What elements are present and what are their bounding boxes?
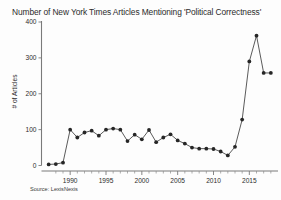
data-point (61, 161, 65, 165)
data-point (262, 71, 266, 75)
data-point (161, 136, 165, 140)
series-line (49, 36, 271, 165)
data-point (176, 138, 180, 142)
data-point (104, 128, 108, 132)
data-point (118, 128, 122, 132)
x-tick-label: 2000 (134, 177, 149, 184)
plot-area: 0100200300400199019952000200520102015 (0, 0, 281, 200)
data-point (255, 34, 259, 38)
data-point (197, 147, 201, 151)
data-point (75, 136, 79, 140)
data-point (97, 134, 101, 138)
data-point (54, 162, 58, 166)
x-tick-label: 2010 (206, 177, 221, 184)
x-tick-label: 2005 (170, 177, 185, 184)
y-tick-label: 0 (33, 162, 37, 169)
data-point (90, 129, 94, 133)
data-point (133, 133, 137, 137)
data-point (212, 147, 216, 151)
y-tick-label: 100 (25, 126, 36, 133)
data-point (83, 131, 87, 135)
data-point (226, 154, 230, 158)
x-tick-label: 1990 (63, 177, 78, 184)
data-point (247, 60, 251, 64)
data-point (47, 163, 51, 167)
data-point (233, 145, 237, 149)
x-tick-label: 2015 (242, 177, 257, 184)
y-tick-label: 300 (25, 54, 36, 61)
data-point (219, 150, 223, 154)
chart-container: Number of New York Times Articles Mentio… (0, 0, 281, 200)
y-tick-label: 400 (25, 18, 36, 25)
data-point (169, 132, 173, 136)
data-point (68, 128, 72, 132)
data-point (240, 118, 244, 122)
data-point (154, 140, 158, 144)
data-point (126, 139, 130, 143)
x-tick-label: 1995 (99, 177, 114, 184)
y-tick-label: 200 (25, 90, 36, 97)
data-point (269, 71, 273, 75)
data-point (111, 127, 115, 131)
data-point (140, 137, 144, 141)
data-point (183, 142, 187, 146)
data-point (204, 147, 208, 151)
data-point (190, 146, 194, 150)
source-note: Source: LexisNexis (30, 186, 78, 192)
data-point (147, 128, 151, 132)
